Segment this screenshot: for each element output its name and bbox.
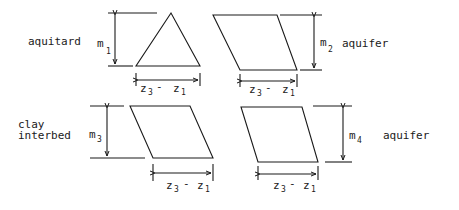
width-label-sub-a: 3 — [148, 88, 153, 97]
parallelogram-shape — [213, 15, 297, 70]
width-label-sub-a: 3 — [281, 185, 286, 194]
thickness-label: m — [320, 36, 327, 49]
diagram-canvas: aquitard m 1 z 3 - z 1 m 2 aquifer z 3 -… — [0, 0, 459, 210]
layer-label: aquifer — [342, 37, 389, 50]
width-label-sub-b: 1 — [290, 89, 295, 98]
panel-aquifer-lower: m 4 aquifer z 3 - z 1 — [241, 106, 430, 194]
thickness-subscript: 4 — [357, 136, 362, 145]
width-label-z: z — [273, 179, 280, 192]
thickness-label: m — [89, 128, 96, 141]
triangle-shape — [136, 13, 200, 66]
panel-aquifer-upper: m 2 aquifer z 3 - z 1 — [213, 15, 389, 98]
thickness-subscript: 1 — [106, 47, 111, 56]
width-label-sub-b: 1 — [311, 185, 316, 194]
parallelogram-shape — [130, 106, 213, 158]
width-label-dash: - — [289, 177, 296, 190]
width-label-z2: z — [173, 82, 180, 95]
width-label-dash: - — [156, 80, 163, 93]
layer-label-line2: interbed — [18, 129, 71, 142]
thickness-label: m — [97, 37, 104, 50]
thickness-subscript: 3 — [97, 135, 102, 144]
width-label-z2: z — [303, 179, 310, 192]
width-label-sub-a: 3 — [257, 89, 262, 98]
width-label-z2: z — [197, 179, 204, 192]
width-label-sub-b: 1 — [181, 88, 186, 97]
panel-clay-interbed: clay interbed m 3 z 3 - z 1 — [18, 106, 213, 194]
layer-label: aquitard — [28, 35, 81, 48]
width-label-z: z — [249, 83, 256, 96]
width-label-dash: - — [265, 81, 272, 94]
thickness-subscript: 2 — [328, 45, 333, 54]
width-label-sub-b: 1 — [205, 185, 210, 194]
layer-label: aquifer — [383, 129, 430, 142]
width-label-z2: z — [282, 83, 289, 96]
panel-aquitard: aquitard m 1 z 3 - z 1 — [28, 13, 200, 97]
width-label-sub-a: 3 — [174, 185, 179, 194]
parallelogram-shape — [241, 107, 318, 162]
thickness-label: m — [349, 129, 356, 142]
width-label-z: z — [140, 82, 147, 95]
width-label-z: z — [166, 179, 173, 192]
width-label-dash: - — [183, 177, 190, 190]
